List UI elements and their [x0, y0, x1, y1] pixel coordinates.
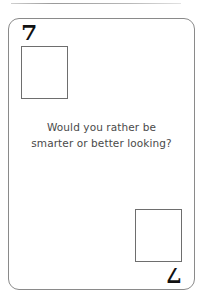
card-prompt-text: Would you rather be smarter or better lo…	[25, 119, 178, 151]
suit-box-top-left-icon	[21, 46, 68, 99]
suit-box-bottom-right-icon	[135, 209, 182, 262]
card-rank-bottom-right: 7	[166, 265, 182, 286]
playing-card[interactable]: 7 Would you rather be smarter or better …	[8, 18, 195, 290]
card-corner-top-left: 7	[15, 22, 75, 112]
sheet-cut-edge-line	[11, 3, 181, 4]
card-sheet-canvas: 7 Would you rather be smarter or better …	[0, 0, 203, 303]
card-rank-top-left: 7	[21, 22, 37, 43]
card-corner-bottom-right: 7	[128, 196, 188, 286]
